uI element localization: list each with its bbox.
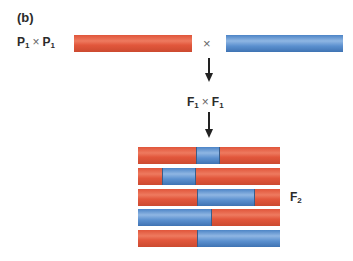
segment-blue xyxy=(196,147,220,164)
segment-red xyxy=(138,147,196,164)
parental-cross-symbol: × xyxy=(203,36,211,51)
segment-red xyxy=(212,209,280,226)
f2-label: F2 xyxy=(290,190,302,205)
arrow-down-2-icon xyxy=(205,129,213,138)
f2-chromosome-1 xyxy=(138,147,280,164)
parent-2-label: P xyxy=(42,35,50,49)
segment-red xyxy=(138,189,197,206)
arrow-down-1-icon xyxy=(205,73,213,82)
f1-cross-symbol: × xyxy=(202,95,209,109)
f2-chromosome-5 xyxy=(138,230,280,247)
segment-red xyxy=(138,230,197,247)
parent-1-chromosome-red xyxy=(74,35,192,52)
f2-chromosome-2 xyxy=(138,168,280,185)
parent-2-chromosome-blue xyxy=(226,35,343,52)
f2-label-subscript: 2 xyxy=(297,196,301,205)
parent-1-label: P xyxy=(17,35,25,49)
arrow-down-2-line xyxy=(208,112,210,130)
segment-red xyxy=(220,147,280,164)
f1-cross-label: F1×F1 xyxy=(187,95,224,110)
cross-symbol: × xyxy=(32,35,39,49)
f1-right-subscript: 1 xyxy=(219,101,223,110)
f2-chromosome-3 xyxy=(138,189,280,206)
parental-cross-label: P1×P1 xyxy=(17,35,55,50)
segment-blue xyxy=(197,230,280,247)
parent-1-subscript: 1 xyxy=(25,41,29,50)
f1-left-subscript: 1 xyxy=(194,101,198,110)
parent-2-subscript: 1 xyxy=(51,41,55,50)
segment-blue xyxy=(162,168,196,185)
segment-blue xyxy=(138,209,212,226)
segment-red xyxy=(196,168,280,185)
panel-label: (b) xyxy=(17,10,34,25)
segment-blue xyxy=(197,189,255,206)
segment-red xyxy=(138,168,162,185)
segment-red xyxy=(255,189,280,206)
arrow-down-1-line xyxy=(208,58,210,74)
f2-chromosome-4 xyxy=(138,209,280,226)
